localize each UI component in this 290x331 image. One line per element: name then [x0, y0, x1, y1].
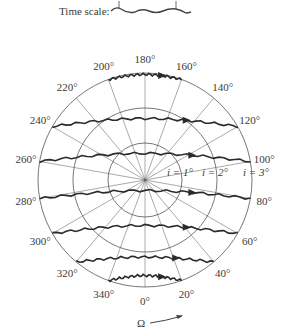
- angle-label: 120°: [239, 114, 260, 126]
- arrow-head-icon: [188, 189, 196, 196]
- circle-label-i1: i = 1°: [167, 166, 193, 178]
- angle-label: 240°: [30, 114, 51, 126]
- angle-label: 200°: [93, 60, 114, 72]
- polar-diagram: Time scale: 0°20°40°60°80°100°120°140°16…: [0, 0, 290, 331]
- arrow-head-icon: [172, 255, 180, 262]
- spoke: [145, 180, 182, 281]
- angle-label: 160°: [176, 60, 197, 72]
- circle-label-i2: i = 2°: [202, 166, 228, 178]
- spoke: [76, 98, 145, 180]
- spoke: [76, 180, 145, 262]
- angle-label: 320°: [57, 267, 78, 279]
- angle-label: 280°: [15, 195, 36, 207]
- arrow-head-icon: [176, 315, 183, 319]
- time-scale-wave: [111, 8, 191, 13]
- angle-label: 0°: [140, 295, 150, 307]
- spoke: [145, 79, 182, 180]
- angle-label: 40°: [215, 267, 230, 279]
- polar-grid: [38, 73, 252, 287]
- angle-label: 220°: [57, 81, 78, 93]
- angle-label: 340°: [93, 288, 114, 300]
- angle-label: 140°: [212, 81, 233, 93]
- arrow-head-icon: [158, 72, 166, 79]
- angle-label: 20°: [179, 288, 194, 300]
- angle-label: 260°: [15, 153, 36, 165]
- arrow-head-icon: [183, 117, 191, 124]
- spoke: [108, 79, 145, 180]
- angle-label: 180°: [135, 53, 156, 65]
- time-scale-label: Time scale:: [59, 5, 110, 17]
- angle-label: 60°: [242, 235, 257, 247]
- angle-label: 300°: [30, 235, 51, 247]
- omega-label: Ω: [137, 317, 145, 329]
- angle-label: 80°: [256, 195, 271, 207]
- circle-label-i3: i = 3°: [243, 166, 269, 178]
- angle-label: 100°: [254, 153, 275, 165]
- spoke: [108, 180, 145, 281]
